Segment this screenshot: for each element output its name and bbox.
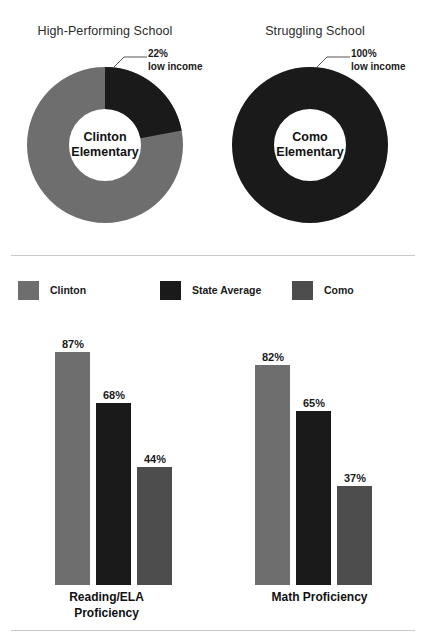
chart-legend: Clinton State Average Como	[0, 275, 426, 307]
callout-subtext: low income	[351, 61, 405, 74]
legend-item-state-average: State Average	[160, 275, 261, 305]
divider-bottom	[11, 630, 415, 631]
bar-value-como: 37%	[329, 472, 381, 484]
legend-label-clinton: Clinton	[50, 284, 86, 296]
bar-value-como: 44%	[129, 453, 181, 465]
donut-svg-como	[230, 65, 390, 225]
group-label-line1: Reading/ELA	[0, 590, 213, 606]
callout-percent: 22%	[148, 48, 202, 61]
bar-como	[337, 486, 372, 585]
bar-state-average	[96, 403, 131, 585]
bar-value-clinton: 87%	[47, 338, 99, 350]
legend-swatch-state-average	[160, 281, 181, 300]
donut-section: High-Performing School Clinton Elementar…	[0, 0, 426, 248]
bar-group-plot: 82% 65% 37%	[213, 318, 426, 585]
donut-slice-low-income	[253, 88, 367, 202]
legend-swatch-como	[292, 281, 313, 300]
bar-clinton	[55, 352, 90, 585]
bar-value-clinton: 82%	[247, 351, 299, 363]
bar-clinton	[255, 365, 290, 585]
legend-swatch-clinton	[18, 281, 39, 300]
bar-group-label-math: Math Proficiency	[213, 590, 426, 606]
bar-group-reading-ela: 87% 68% 44% Reading/ELA Proficiency	[0, 318, 213, 623]
bar-state-average	[296, 411, 331, 585]
legend-label-state-average: State Average	[192, 284, 261, 296]
bar-group-label-reading-ela: Reading/ELA Proficiency	[0, 590, 213, 621]
bar-value-state-average: 65%	[288, 397, 340, 409]
group-label-line1: Math Proficiency	[213, 590, 426, 606]
callout-percent: 100%	[351, 48, 405, 61]
bar-value-state-average: 68%	[88, 389, 140, 401]
donut-title-struggling: Struggling School	[210, 24, 420, 38]
legend-item-clinton: Clinton	[18, 275, 86, 305]
legend-label-como: Como	[324, 284, 354, 296]
donut-panel-como: Struggling School Como Elementary 100% l…	[210, 0, 420, 248]
bar-group-math: 82% 65% 37% Math Proficiency	[213, 318, 426, 623]
bar-como	[137, 467, 172, 585]
school-comparison-infographic: High-Performing School Clinton Elementar…	[0, 0, 426, 640]
callout-clinton: 22% low income	[148, 48, 202, 74]
callout-leader-line-clinton	[112, 55, 148, 69]
donut-title-high-performing: High-Performing School	[0, 24, 210, 38]
donut-chart-clinton: Clinton Elementary	[25, 65, 185, 225]
bar-chart: 87% 68% 44% Reading/ELA Proficiency 82% …	[0, 318, 426, 623]
bar-group-plot: 87% 68% 44%	[0, 318, 213, 585]
callout-como: 100% low income	[351, 48, 405, 74]
callout-leader-line-como	[315, 55, 351, 69]
donut-chart-como: Como Elementary	[230, 65, 390, 225]
callout-subtext: low income	[148, 61, 202, 74]
legend-item-como: Como	[292, 275, 354, 305]
divider-top	[11, 255, 415, 256]
donut-panel-clinton: High-Performing School Clinton Elementar…	[0, 0, 210, 248]
group-label-line2: Proficiency	[0, 606, 213, 622]
donut-svg-clinton	[25, 65, 185, 225]
